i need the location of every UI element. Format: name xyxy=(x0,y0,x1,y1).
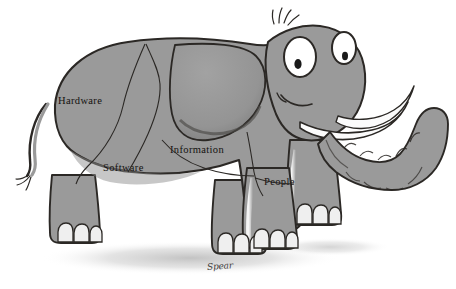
tail xyxy=(16,104,48,190)
region-label-people: People xyxy=(264,177,295,188)
artist-signature: Spear xyxy=(207,260,234,272)
region-label-hardware: Hardware xyxy=(58,96,102,107)
elephant-diagram: Hardware Software Information People Spe… xyxy=(0,0,456,289)
region-label-information: Information xyxy=(170,145,224,156)
region-label-software: Software xyxy=(103,163,144,174)
elephant-illustration xyxy=(0,0,456,289)
head-hair-tufts xyxy=(272,8,299,25)
